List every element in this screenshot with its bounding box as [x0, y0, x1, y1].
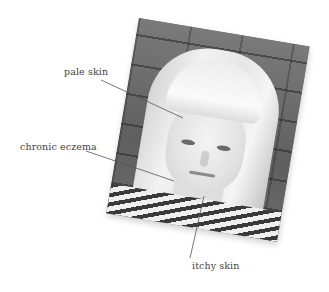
- leader-line-pale-skin: [101, 80, 183, 118]
- leader-line-itchy-skin: [190, 196, 204, 258]
- label-chronic-eczema: chronic eczema: [20, 141, 97, 152]
- leader-line-chronic-eczema: [86, 151, 174, 181]
- label-itchy-skin: itchy skin: [192, 260, 239, 271]
- label-pale-skin: pale skin: [64, 66, 108, 77]
